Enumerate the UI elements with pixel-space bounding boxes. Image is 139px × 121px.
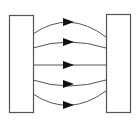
plates [10, 15, 131, 113]
field-line-5 [33, 91, 106, 105]
arrow-head-icon [63, 18, 74, 26]
field-arrows [63, 18, 74, 109]
field-lines-diagram [0, 0, 139, 121]
arrow-head-icon [63, 61, 74, 69]
arrow-head-icon [63, 101, 74, 109]
arrow-head-icon [63, 80, 74, 88]
left-plate [10, 16, 34, 113]
arrow-head-icon [63, 38, 74, 46]
right-plate [107, 15, 131, 113]
field-line-1 [33, 22, 106, 37]
